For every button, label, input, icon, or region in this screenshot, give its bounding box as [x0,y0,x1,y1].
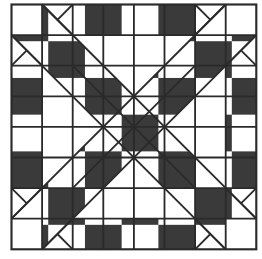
shaded-patch [42,35,73,66]
shaded-patch [195,35,226,66]
shaded-patch [42,188,73,219]
shaded-patch [195,188,226,219]
block-grid [12,5,257,250]
quilt-block-diagram [0,0,262,259]
